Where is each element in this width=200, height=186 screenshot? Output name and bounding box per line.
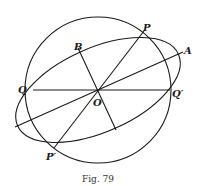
- minor-axis: [78, 48, 116, 130]
- label-q-prime: Q′: [172, 88, 184, 99]
- label-a: A: [183, 45, 192, 56]
- figure-caption: Fig. 79: [82, 174, 114, 184]
- label-p: P: [142, 22, 151, 33]
- label-o: O: [93, 97, 102, 108]
- geometry-figure: P A B O Q′ Q P′ Fig. 79: [0, 0, 200, 186]
- label-p-prime: P′: [45, 151, 57, 162]
- label-b: B: [73, 41, 82, 52]
- label-q: Q: [18, 84, 27, 95]
